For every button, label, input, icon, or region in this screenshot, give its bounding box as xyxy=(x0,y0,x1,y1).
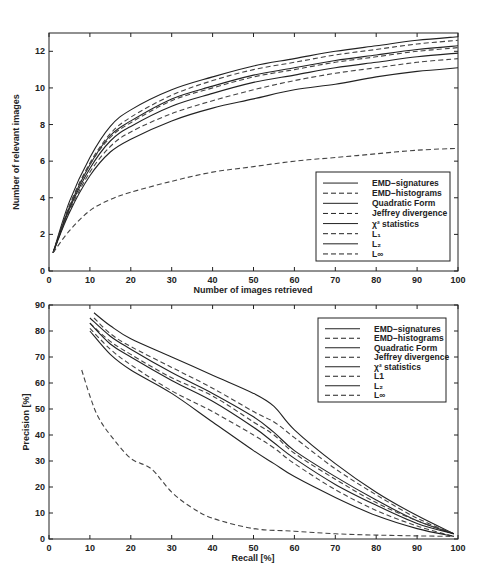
x-tick-label: 50 xyxy=(248,275,258,285)
x-tick-label: 70 xyxy=(330,275,340,285)
x-tick-label: 40 xyxy=(208,275,218,285)
y-tick-label: 30 xyxy=(35,456,45,466)
x-tick-label: 20 xyxy=(126,275,136,285)
y-tick-label: 70 xyxy=(35,352,45,362)
legend-label: L∞ xyxy=(372,249,383,259)
y-tick-label: 12 xyxy=(35,46,45,56)
y-tick-label: 50 xyxy=(35,404,45,414)
lower-plot: 0102030405060708090100 01020304050607080… xyxy=(21,300,466,563)
lower-y-axis-label: Precision [%] xyxy=(21,393,31,450)
x-tick-label: 40 xyxy=(208,543,218,553)
legend-label: χ² statistics xyxy=(374,362,421,372)
y-tick-label: 60 xyxy=(35,378,45,388)
upper-y-axis-label: Number of relevant images xyxy=(11,94,21,210)
x-tick-label: 0 xyxy=(46,275,51,285)
upper-x-axis-label: Number of images retrieved xyxy=(193,285,312,295)
x-tick-label: 20 xyxy=(126,543,136,553)
x-tick-label: 0 xyxy=(46,543,51,553)
y-tick-label: 2 xyxy=(40,229,45,239)
lower-x-axis-label: Recall [%] xyxy=(231,553,274,563)
legend-label: Jeffrey divergence xyxy=(372,208,447,218)
x-tick-label: 90 xyxy=(412,275,422,285)
x-tick-label: 30 xyxy=(167,275,177,285)
y-tick-label: 0 xyxy=(40,266,45,276)
x-tick-label: 80 xyxy=(371,275,381,285)
figure: 0102030405060708090100 024681012 Number … xyxy=(0,0,488,586)
legend-label: L₁ xyxy=(372,229,381,239)
legend-label: χ² statistics xyxy=(372,219,419,229)
legend-label: Quadratic Form xyxy=(372,198,436,208)
legend-label: Quadratic Form xyxy=(374,343,438,353)
y-tick-label: 10 xyxy=(35,83,45,93)
legend-label: EMD−signatures xyxy=(374,324,441,334)
y-tick-label: 6 xyxy=(40,156,45,166)
x-tick-label: 100 xyxy=(450,543,465,553)
x-tick-label: 10 xyxy=(85,543,95,553)
x-tick-label: 50 xyxy=(248,543,258,553)
y-tick-label: 20 xyxy=(35,482,45,492)
y-tick-label: 10 xyxy=(35,508,45,518)
legend-label: EMD−histograms xyxy=(372,188,442,198)
legend-label: L₂ xyxy=(374,381,383,391)
x-tick-label: 30 xyxy=(167,543,177,553)
y-tick-label: 90 xyxy=(35,300,45,310)
legend-label: Jeffrey divergence xyxy=(374,352,449,362)
x-tick-label: 60 xyxy=(289,543,299,553)
legend-label: EMD−signatures xyxy=(372,178,439,188)
y-tick-label: 8 xyxy=(40,120,45,130)
x-tick-label: 70 xyxy=(330,543,340,553)
y-tick-label: 40 xyxy=(35,430,45,440)
x-tick-label: 90 xyxy=(412,543,422,553)
legend-label: L∞ xyxy=(374,390,385,400)
x-tick-label: 10 xyxy=(85,275,95,285)
lower-legend: EMD−signaturesEMD−histogramsQuadratic Fo… xyxy=(318,318,449,402)
upper-legend: EMD−signaturesEMD−histogramsQuadratic Fo… xyxy=(316,172,450,261)
x-tick-label: 60 xyxy=(289,275,299,285)
legend-label: L1 xyxy=(374,371,384,381)
x-tick-label: 100 xyxy=(450,275,465,285)
y-tick-label: 0 xyxy=(40,534,45,544)
legend-label: EMD−histograms xyxy=(374,333,444,343)
y-tick-label: 4 xyxy=(40,193,45,203)
legend-label: L₂ xyxy=(372,239,381,249)
x-tick-label: 80 xyxy=(371,543,381,553)
y-tick-label: 80 xyxy=(35,326,45,336)
upper-plot: 0102030405060708090100 024681012 Number … xyxy=(11,33,466,295)
